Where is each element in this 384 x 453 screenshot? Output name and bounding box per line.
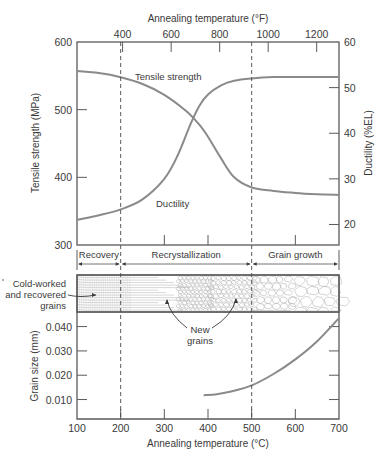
tensile-tick-label: 400: [54, 171, 72, 183]
stage-label: Recovery: [79, 249, 119, 260]
grain-size-tick-label: 0.010: [46, 394, 72, 406]
celsius-tick-label: 500: [243, 422, 261, 434]
grain-size-curve: [204, 318, 339, 395]
cold-worked-label-line1: Cold-worked: [13, 278, 66, 289]
fahrenheit-tick-label: 400: [114, 28, 132, 40]
ductility-tick-label: 50: [344, 82, 356, 94]
ductility-label: Ductility: [156, 198, 190, 209]
grain-size-tick-label: 0.030: [46, 345, 72, 357]
tensile-axis-ticks: 600500400300: [54, 36, 295, 251]
tensile-axis-title: Tensile strength (MPa): [30, 93, 41, 193]
ductility-axis-title: Ductility (%EL): [363, 110, 374, 176]
celsius-tick-label: 200: [112, 422, 130, 434]
bottom-axis-title: Annealing temperature (°C): [147, 438, 269, 449]
chart-canvas: Annealing temperature (°F) 4006008001000…: [0, 0, 384, 453]
tensile-strength-curve: [77, 71, 339, 195]
ductility-tick-label: 40: [344, 127, 356, 139]
fahrenheit-tick-label: 600: [162, 28, 180, 40]
stage-label: Recrystallization: [152, 249, 221, 260]
celsius-tick-label: 100: [68, 422, 86, 434]
fahrenheit-tick-label: 1000: [256, 28, 280, 40]
tensile-tick-label: 500: [54, 104, 72, 116]
properties-plot-frame: [77, 42, 339, 245]
ductility-curve: [77, 77, 339, 220]
celsius-tick-label: 300: [156, 422, 174, 434]
grain-size-tick-label: 0.020: [46, 369, 72, 381]
celsius-tick-label: 400: [199, 422, 217, 434]
celsius-tick-label: 600: [287, 422, 305, 434]
grain-size-tick-label: 0.040: [46, 321, 72, 333]
celsius-tick-label: 700: [330, 422, 348, 434]
ductility-tick-label: 20: [344, 218, 356, 230]
top-axis-title: Annealing temperature (°F): [148, 13, 269, 24]
tensile-tick-label: 600: [54, 36, 72, 48]
new-grains-label-line1: New: [190, 324, 209, 335]
top-axis-ticks: 40060080010001200: [114, 28, 329, 52]
fahrenheit-tick-label: 1200: [305, 28, 329, 40]
stage-band: RecoveryRecrystallizationGrain growth: [77, 249, 339, 270]
stage-boundary-lines: [121, 42, 252, 419]
tensile-strength-label: Tensile strength: [135, 71, 202, 82]
tensile-tick-label: 300: [54, 239, 72, 251]
celsius-axis-ticks: 100200300400500600700: [68, 409, 348, 434]
microstructure-strip: [77, 275, 350, 312]
annealing-figure: Annealing temperature (°F) 4006008001000…: [0, 0, 384, 453]
new-grains-label-line2: grains: [187, 335, 213, 346]
ductility-axis-ticks: 6050403020: [329, 36, 356, 230]
grain-size-axis-title: Grain size (mm): [29, 330, 40, 401]
ductility-tick-label: 60: [344, 36, 356, 48]
cold-worked-label-line2: and recovered: [5, 289, 66, 300]
cold-worked-label-line3: grains: [40, 300, 66, 311]
stage-label: Grain growth: [268, 249, 322, 260]
ductility-tick-label: 30: [344, 173, 356, 185]
fahrenheit-tick-label: 800: [211, 28, 229, 40]
